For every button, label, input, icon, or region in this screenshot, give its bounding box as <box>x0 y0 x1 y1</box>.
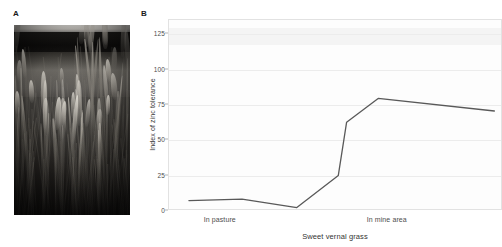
y-axis-title: Index of zinc tolerance <box>149 40 156 190</box>
x-tick-label: In pasture <box>204 216 236 223</box>
series-polyline <box>189 98 494 207</box>
photo-vignette <box>14 25 130 215</box>
y-tick-label: 100 <box>141 65 165 72</box>
panel-a-label: A <box>13 9 19 18</box>
y-tick-mark <box>165 139 168 140</box>
plot-area <box>168 19 502 210</box>
grass-photograph <box>14 25 130 215</box>
y-tick-label: 125 <box>141 30 165 37</box>
y-tick-mark <box>165 210 168 211</box>
y-tick-mark <box>165 68 168 69</box>
y-tick-label: 25 <box>141 171 165 178</box>
y-tick-label: 0 <box>141 207 165 214</box>
y-tick-mark <box>165 33 168 34</box>
y-tick-mark <box>165 103 168 104</box>
y-tick-mark <box>165 174 168 175</box>
data-series-line <box>169 20 501 209</box>
y-tick-label: 50 <box>141 136 165 143</box>
zinc-tolerance-line-chart: Index of zinc tolerance 0255075100125 In… <box>141 16 486 241</box>
x-tick-label: In mine area <box>367 216 407 223</box>
y-tick-label: 75 <box>141 100 165 107</box>
x-axis-title: Sweet vernal grass <box>168 232 502 241</box>
